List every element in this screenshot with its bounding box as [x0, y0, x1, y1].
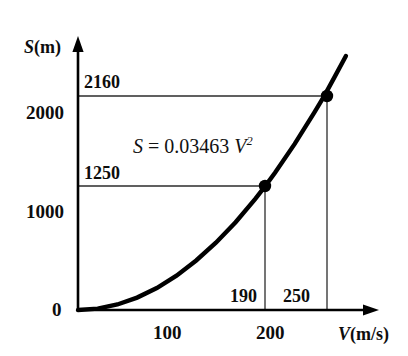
y-tick-label-2000: 2000: [26, 103, 64, 122]
x-axis-label: V(m/s): [338, 325, 389, 343]
origin-label: 0: [52, 300, 62, 319]
y-axis-arrowhead: [72, 36, 83, 52]
equation-variable: V: [234, 135, 246, 157]
x-tick-label-100: 100: [153, 323, 182, 342]
equation-lhs: S: [133, 135, 143, 157]
y-axis-label: S(m): [24, 38, 61, 56]
callout-2160: 2160: [84, 73, 120, 91]
callout-190: 190: [230, 287, 257, 305]
y-axis-symbol: S: [24, 37, 34, 57]
callout-1250: 1250: [84, 164, 120, 182]
equation-exponent: 2: [247, 134, 253, 148]
curve-path: [78, 56, 346, 310]
y-tick-label-1000: 1000: [26, 202, 64, 221]
y-axis-unit: (m): [34, 37, 61, 57]
stopping-distance-chart: S(m) V(m/s) 2000 1000 0 100 200 2160 125…: [0, 0, 408, 356]
data-point-marker-190[interactable]: [259, 180, 271, 192]
equation-annotation: S = 0.03463 V2: [133, 136, 253, 156]
x-axis-symbol: V: [338, 324, 350, 344]
x-axis-arrowhead: [363, 304, 379, 315]
x-tick-label-200: 200: [256, 323, 285, 342]
x-axis-unit: (m/s): [350, 324, 389, 344]
callout-250: 250: [283, 287, 310, 305]
equation-rhs-coefficient: = 0.03463: [148, 135, 229, 157]
data-point-marker-250[interactable]: [321, 90, 333, 102]
